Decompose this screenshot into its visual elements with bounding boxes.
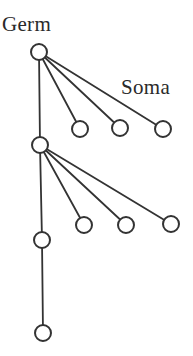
germ-line-edge	[42, 240, 43, 333]
tree-graphic	[0, 0, 193, 356]
soma-label: Soma	[121, 77, 170, 98]
germ-cell-node	[34, 232, 50, 248]
soma-cell-node	[118, 217, 134, 233]
soma-branch-edge	[40, 145, 171, 224]
soma-cell-node	[112, 120, 128, 136]
soma-branch-edge	[40, 145, 126, 225]
germ-soma-diagram: Germ Soma	[0, 0, 193, 356]
soma-branch-edge	[39, 52, 80, 129]
soma-branch-edge	[40, 145, 84, 225]
soma-cell-node	[76, 217, 92, 233]
germ-line-edge	[40, 145, 42, 240]
soma-branch-edge	[39, 52, 120, 128]
germ-cell-node	[32, 137, 48, 153]
germ-line-edge	[39, 52, 40, 145]
soma-cell-node	[163, 216, 179, 232]
soma-cell-node	[155, 121, 171, 137]
germ-label: Germ	[2, 14, 51, 35]
germ-cell-node	[35, 325, 51, 341]
soma-cell-node	[72, 121, 88, 137]
germ-cell-node	[31, 44, 47, 60]
